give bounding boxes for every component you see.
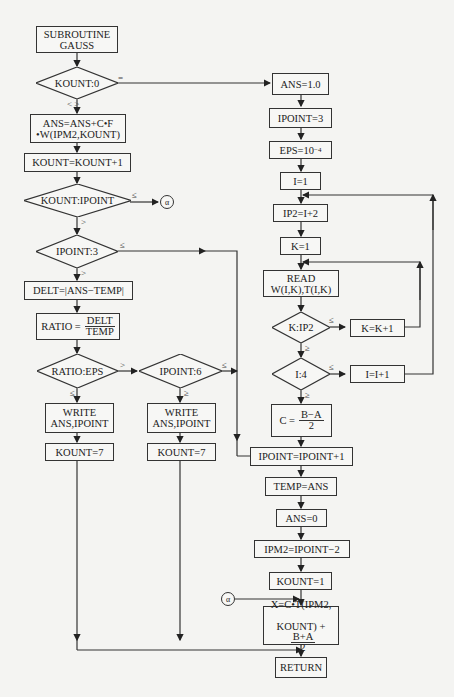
node-return: RETURN xyxy=(275,657,327,678)
eps-exponent: −4 xyxy=(314,145,321,156)
connector-alpha-out: α xyxy=(160,195,174,209)
decision-k-ip2-label: K:IP2 xyxy=(288,322,313,333)
ratio-fraction: DELT TEMP xyxy=(85,316,115,337)
node-ipoint-set3: IPOINT=3 xyxy=(269,108,332,128)
label-le: ≤ xyxy=(70,388,75,398)
decision-ipoint3-label: IPOINT:3 xyxy=(56,246,98,257)
decision-kount-ipoint: KOUNT:IPOINT xyxy=(24,184,131,217)
node-k-inc: K=K+1 xyxy=(350,319,405,337)
node-eps: EPS=10−4 xyxy=(269,141,332,159)
label-le: ≤ xyxy=(132,190,137,200)
node-kount1: KOUNT=1 xyxy=(269,572,332,590)
label-gt: > xyxy=(81,268,86,278)
label-le: ≤ xyxy=(222,360,227,370)
node-delt: DELT=|ANS−TEMP| xyxy=(24,281,133,300)
c-lhs: C = xyxy=(279,415,295,426)
node-read: READ W(I,K),T(I,K) xyxy=(263,270,339,297)
decision-kount0-label: KOUNT:0 xyxy=(55,78,99,89)
node-x: X=C•T(IPM2, KOUNT) + B+A 2 xyxy=(263,606,339,645)
decision-kount0: KOUNT:0 xyxy=(36,67,118,99)
decision-kount-ipoint-label: KOUNT:IPOINT xyxy=(41,195,115,206)
node-k1: K=1 xyxy=(280,237,321,255)
label-ge: ≥ xyxy=(305,343,310,353)
node-ans1: ANS=1.0 xyxy=(272,73,329,95)
x-denominator: 2 xyxy=(300,643,305,653)
decision-ratio-eps: RATIO:EPS xyxy=(37,354,118,388)
label-le: ≤ xyxy=(120,240,125,250)
label-ge: ≥ xyxy=(184,388,189,398)
label-ge: ≥ xyxy=(305,390,310,400)
node-ipoint-inc: IPOINT=IPOINT+1 xyxy=(250,447,353,466)
x-line2: KOUNT) + xyxy=(277,621,326,632)
ratio-lhs: RATIO = xyxy=(41,321,80,332)
decision-ipoint6: IPOINT:6 xyxy=(139,354,222,388)
node-c: C = B−A 2 xyxy=(271,404,332,437)
node-kount7a: KOUNT=7 xyxy=(45,443,114,461)
c-denominator: 2 xyxy=(309,421,314,431)
node-start: SUBROUTINE GAUSS xyxy=(36,26,118,53)
node-temp: TEMP=ANS xyxy=(265,477,337,496)
connector-alpha-in: α xyxy=(221,592,235,606)
node-i1: I=1 xyxy=(280,172,321,190)
x-numerator: B+A xyxy=(291,632,316,643)
node-kount-inc: KOUNT=KOUNT+1 xyxy=(24,153,131,172)
eps-base: EPS=10 xyxy=(280,145,315,156)
label-gt: > xyxy=(81,217,86,227)
label-le: ≤ xyxy=(329,362,334,372)
decision-k-ip2: K:IP2 xyxy=(272,312,330,343)
label-le: ≤ xyxy=(329,315,334,325)
label-eq: = xyxy=(118,73,123,83)
x-line2-wrap: KOUNT) + B+A 2 xyxy=(277,610,326,653)
node-ans0: ANS=0 xyxy=(276,509,327,527)
node-kount7b: KOUNT=7 xyxy=(147,443,216,461)
node-ip2: IP2=I+2 xyxy=(273,204,328,222)
x-line1: X=C•T(IPM2, xyxy=(271,599,332,610)
ratio-denominator: TEMP xyxy=(86,327,114,337)
decision-ipoint3: IPOINT:3 xyxy=(36,235,118,268)
node-ans-accum: ANS=ANS+C•F •W(IPM2,KOUNT) xyxy=(30,114,126,143)
decision-ratio-eps-label: RATIO:EPS xyxy=(52,366,104,377)
label-ne: < > xyxy=(67,99,79,109)
decision-ipoint6-label: IPOINT:6 xyxy=(159,366,201,377)
x-fraction: B+A 2 xyxy=(291,632,316,653)
c-fraction: B−A 2 xyxy=(299,410,324,431)
decision-i4: I:4 xyxy=(272,358,330,390)
node-ratio: RATIO = DELT TEMP xyxy=(36,313,120,340)
node-write1: WRITE ANS,IPOINT xyxy=(45,403,114,433)
node-write2: WRITE ANS,IPOINT xyxy=(147,403,216,433)
decision-i4-label: I:4 xyxy=(295,369,307,380)
label-gt: > xyxy=(120,360,125,370)
node-ipm2: IPM2=IPOINT−2 xyxy=(254,540,350,558)
node-i-inc: I=I+1 xyxy=(350,365,405,383)
